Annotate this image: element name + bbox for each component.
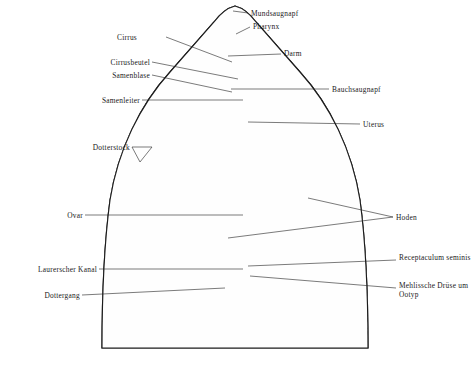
label-samenblase: Samenblase (62, 71, 150, 80)
label-mehlissche-druese: Mehlissche Drüse um Ootyp (399, 281, 471, 299)
label-bauchsaugnapf: Bauchsaugnapf (332, 85, 381, 94)
label-cirrus: Cirrus (100, 33, 137, 42)
label-laurerscher-kanal: Laurerscher Kanal (6, 265, 97, 274)
label-darm: Darm (284, 49, 302, 58)
label-dottergang: Dottergang (16, 291, 80, 300)
label-hoden: Hoden (396, 213, 417, 222)
label-cirrusbeutel: Cirrusbeutel (62, 58, 150, 67)
label-uterus: Uterus (363, 120, 384, 129)
label-dotterstock: Dotterstock (48, 143, 130, 152)
label-mundsaugnapf: Mundsaugnapf (251, 9, 298, 18)
label-receptaculum-seminis: Receptaculum seminis (399, 253, 471, 262)
label-ovar: Ovar (40, 211, 83, 220)
label-samenleiter: Samenleiter (56, 96, 140, 105)
label-pharynx: Pharynx (253, 22, 279, 31)
